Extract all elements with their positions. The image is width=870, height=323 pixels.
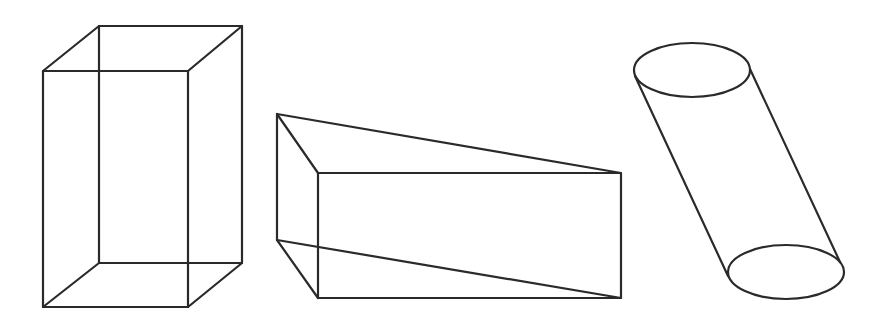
cylinder-right-side <box>750 69 840 262</box>
triangular-prism <box>277 114 621 298</box>
cylinder-top-ellipse <box>634 43 750 97</box>
triprism-bottom-left-connector <box>277 240 318 298</box>
cuboid-top-left-connector <box>43 26 99 71</box>
triprism-top-long-edge <box>277 114 621 173</box>
cuboid-bottom-left-connector <box>43 263 99 307</box>
diagram-canvas <box>0 0 870 323</box>
oblique-cylinder <box>634 43 844 299</box>
cuboid-top-right-connector <box>188 26 242 71</box>
cuboid-bottom-right-connector <box>188 263 242 307</box>
rectangular-prism <box>43 26 242 307</box>
cylinder-bottom-ellipse <box>728 245 844 299</box>
geometry-diagram <box>0 0 870 323</box>
triprism-front-face <box>318 173 621 298</box>
triprism-bottom-long-edge <box>277 240 621 298</box>
triprism-top-left-connector <box>277 114 318 173</box>
cylinder-left-side <box>635 76 728 276</box>
cuboid-front-face <box>43 71 188 307</box>
